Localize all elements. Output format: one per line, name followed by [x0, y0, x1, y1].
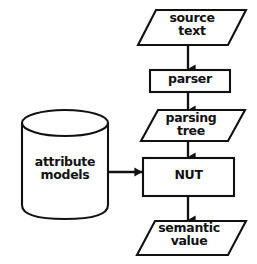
flowchart-canvas	[0, 0, 257, 264]
node-shape-parsing-tree	[141, 110, 245, 141]
cylinder-top-ellipse	[22, 110, 108, 136]
node-shape-parser	[150, 70, 230, 92]
flowchart-diagram: source text parser parsing tree NUT sema…	[0, 0, 257, 264]
node-shape-semantic-value	[137, 221, 246, 255]
node-shape-source-text	[138, 10, 246, 45]
node-shape-nut	[143, 158, 234, 196]
node-shape-attribute-models	[22, 123, 108, 219]
